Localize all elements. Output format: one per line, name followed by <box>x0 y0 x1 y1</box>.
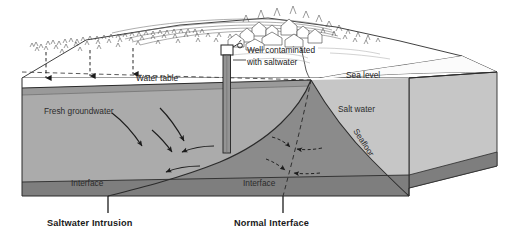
label-sea-level: Sea level <box>346 70 380 80</box>
label-well-line1: Well contaminated <box>247 45 315 55</box>
block-diagram-svg: Water table Sea level Fresh groundwater … <box>0 0 513 237</box>
caption-saltwater-intrusion: Saltwater Intrusion <box>47 218 133 228</box>
well-casing <box>223 55 231 153</box>
label-water-table: Water table <box>136 73 179 83</box>
diagram-canvas: Water table Sea level Fresh groundwater … <box>0 0 513 237</box>
ocean-right-face <box>409 72 497 188</box>
label-interface-left: Interface <box>71 178 104 188</box>
label-interface-right: Interface <box>243 178 276 188</box>
label-fresh-groundwater: Fresh groundwater <box>44 106 114 116</box>
label-salt-water: Salt water <box>338 104 375 114</box>
caption-normal-interface: Normal Interface <box>234 218 309 228</box>
label-well-line2: with saltwater <box>246 57 297 67</box>
